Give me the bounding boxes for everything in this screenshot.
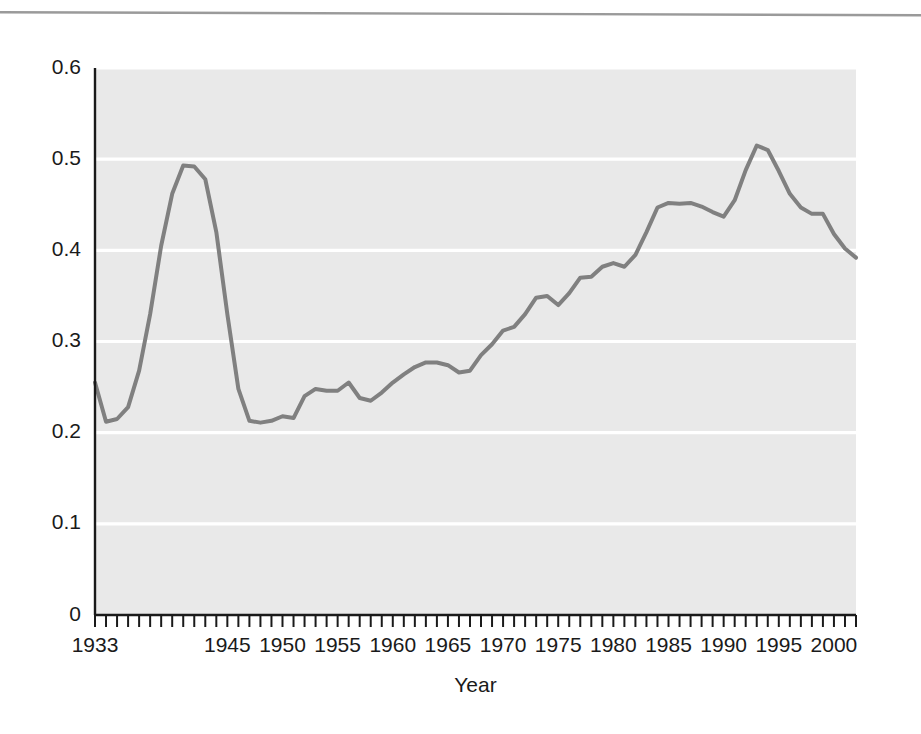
x-tick-label-1970: 1970 [480,633,527,656]
y-tick-label-0.6: 0.6 [52,55,81,78]
x-tick-label-1933: 1933 [72,633,119,656]
y-tick-label-0: 0 [69,602,81,625]
x-axis-title: Year [454,673,496,696]
x-tick-label-1995: 1995 [755,633,802,656]
y-axis-tick-labels: 00.10.20.30.40.50.6 [52,55,82,625]
x-tick-label-1945: 1945 [204,633,251,656]
x-axis-title-text: Year [454,673,496,696]
y-tick-label-0.1: 0.1 [52,510,81,533]
figure-container: 00.10.20.30.40.50.6 19331945195019551960… [0,0,921,734]
x-tick-label-1975: 1975 [535,633,582,656]
x-tick-label-1960: 1960 [369,633,416,656]
y-tick-label-0.4: 0.4 [52,237,82,260]
y-tick-label-0.5: 0.5 [52,146,81,169]
y-tick-label-0.3: 0.3 [52,328,81,351]
x-tick-label-1985: 1985 [645,633,692,656]
x-axis-ticks [95,615,856,627]
x-tick-label-2000: 2000 [811,633,858,656]
x-tick-label-1950: 1950 [259,633,306,656]
y-tick-label-0.2: 0.2 [52,419,81,442]
x-axis-tick-labels: 1933194519501955196019651970197519801985… [72,633,858,656]
x-tick-label-1965: 1965 [425,633,472,656]
x-tick-label-1955: 1955 [314,633,361,656]
x-tick-label-1990: 1990 [700,633,747,656]
x-tick-label-1980: 1980 [590,633,637,656]
line-chart: 00.10.20.30.40.50.6 19331945195019551960… [0,0,921,734]
